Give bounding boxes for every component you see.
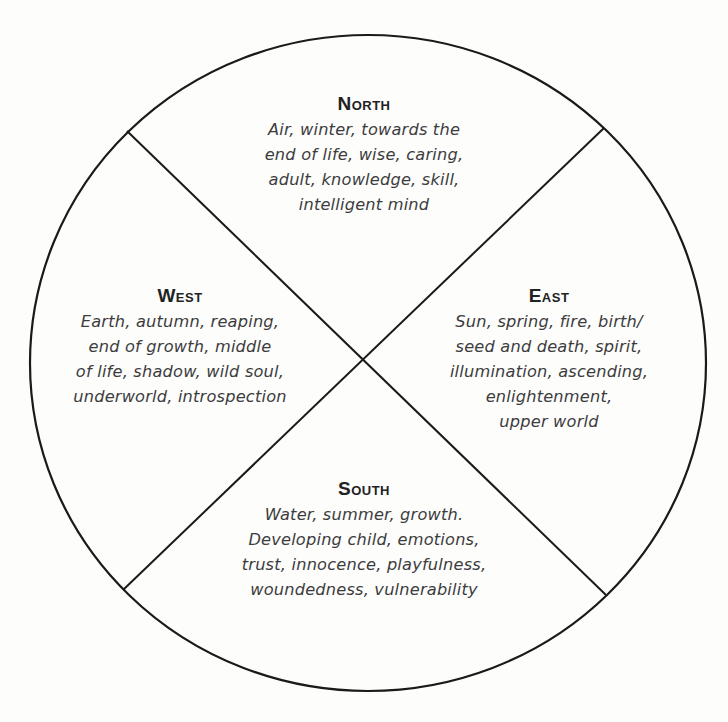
quadrant-text-line: end of life, wise, caring, <box>265 142 464 167</box>
quadrant-text-line: Sun, spring, fire, birth/ <box>450 309 648 334</box>
quadrant-text-line: enlightenment, <box>450 384 648 409</box>
quadrant-title-west: West <box>73 286 287 306</box>
quadrant-text-line: trust, innocence, playfulness, <box>242 552 486 577</box>
quadrant-text-line: woundedness, vulnerability <box>242 577 486 602</box>
quadrant-south: South Water, summer, growth. Developing … <box>242 479 486 602</box>
quadrant-text-line: end of growth, middle <box>73 334 287 359</box>
quadrant-text-line: intelligent mind <box>265 192 464 217</box>
quadrant-text-line: Water, summer, growth. <box>242 502 486 527</box>
quadrant-text-line: upper world <box>450 409 648 434</box>
quadrant-text-line: of life, shadow, wild soul, <box>73 359 287 384</box>
quadrant-east: East Sun, spring, fire, birth/ seed and … <box>450 286 648 434</box>
quadrant-text-line: Air, winter, towards the <box>265 117 464 142</box>
quadrant-text-line: illumination, ascending, <box>450 359 648 384</box>
quadrant-text-line: adult, knowledge, skill, <box>265 167 464 192</box>
quadrant-text-line: underworld, introspection <box>73 384 287 409</box>
quadrant-title-south: South <box>242 479 486 499</box>
quadrant-north: North Air, winter, towards the end of li… <box>265 94 464 217</box>
quadrant-text-line: Earth, autumn, reaping, <box>73 309 287 334</box>
quadrant-title-east: East <box>450 286 648 306</box>
quadrant-west: West Earth, autumn, reaping, end of grow… <box>73 286 287 409</box>
quadrant-text-line: Developing child, emotions, <box>242 527 486 552</box>
quadrant-text-line: seed and death, spirit, <box>450 334 648 359</box>
quadrant-title-north: North <box>265 94 464 114</box>
